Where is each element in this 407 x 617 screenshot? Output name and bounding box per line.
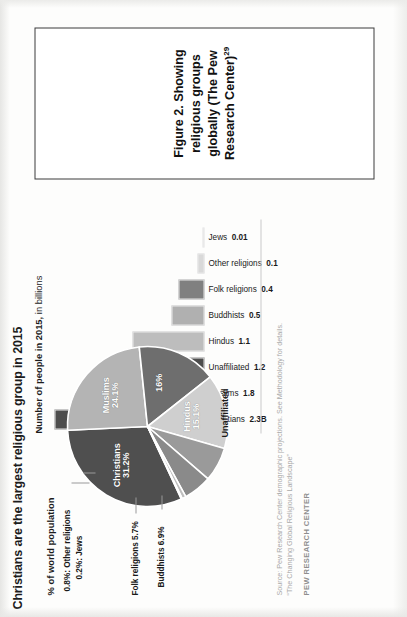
figure-caption-box: Figure 2. Showing religious groups globa… xyxy=(34,27,374,179)
bar-heading-normal: in billions xyxy=(32,275,43,316)
bar-value-label: 0.5 xyxy=(249,311,260,320)
leader-line-folk xyxy=(135,497,136,513)
rotated-document-content: Christians are the largest religious gro… xyxy=(0,0,407,617)
bar-category-label: Jews xyxy=(208,233,231,242)
bar-rect xyxy=(202,227,204,247)
bar-label: Jews 0.01 xyxy=(208,233,247,242)
bar-chart-heading: Number of people in 2015, in billions xyxy=(32,275,43,433)
scanned-page: Christians are the largest religious gro… xyxy=(0,0,407,617)
pie-chart-heading: % of world population xyxy=(44,497,55,595)
source-line-2: “The Changing Global Religious Landscape… xyxy=(284,219,294,595)
caption-body: Figure 2. Showing religious groups globa… xyxy=(171,49,236,160)
leader-line-jews xyxy=(83,472,95,473)
bar-value-label: 0.01 xyxy=(231,233,247,242)
figure-caption-text: Figure 2. Showing religious groups globa… xyxy=(170,35,238,171)
pie-chart: % of world population Christians31.2%Mus… xyxy=(44,255,244,595)
source-brand: PEW RESEARCH CENTER xyxy=(301,219,310,595)
bar-heading-bold: Number of people in 2015, xyxy=(32,316,43,433)
pew-infographic: Christians are the largest religious gro… xyxy=(8,214,400,609)
pie-plot-area: Christians31.2%Muslims24.1%16%Hindus15.1… xyxy=(62,341,232,511)
pie-svg xyxy=(62,341,232,511)
pie-slice-muslims xyxy=(67,346,147,429)
leader-line-other-religions xyxy=(71,482,89,483)
infographic-title: Christians are the largest religious gro… xyxy=(10,279,24,609)
source-block: Source: Pew Research Center demographic … xyxy=(274,219,310,595)
source-line-1: Source: Pew Research Center demographic … xyxy=(274,219,284,595)
bar-value-label: 1.2 xyxy=(253,363,264,372)
section-divider xyxy=(260,219,261,433)
bar-value-label: 0.4 xyxy=(261,285,272,294)
bar-value-label: 2.3B xyxy=(249,415,266,424)
callout-jews: 0.2%: Jews xyxy=(74,535,83,579)
caption-footnote-marker: 29 xyxy=(221,46,230,55)
callout-folk-religions: Folk religions 5.7% xyxy=(130,521,139,595)
callout-other-religions: 0.8%: Other religions xyxy=(62,509,71,591)
leader-line-buddhists xyxy=(161,495,162,509)
callout-buddhists: Buddhists 6.9% xyxy=(156,526,165,587)
